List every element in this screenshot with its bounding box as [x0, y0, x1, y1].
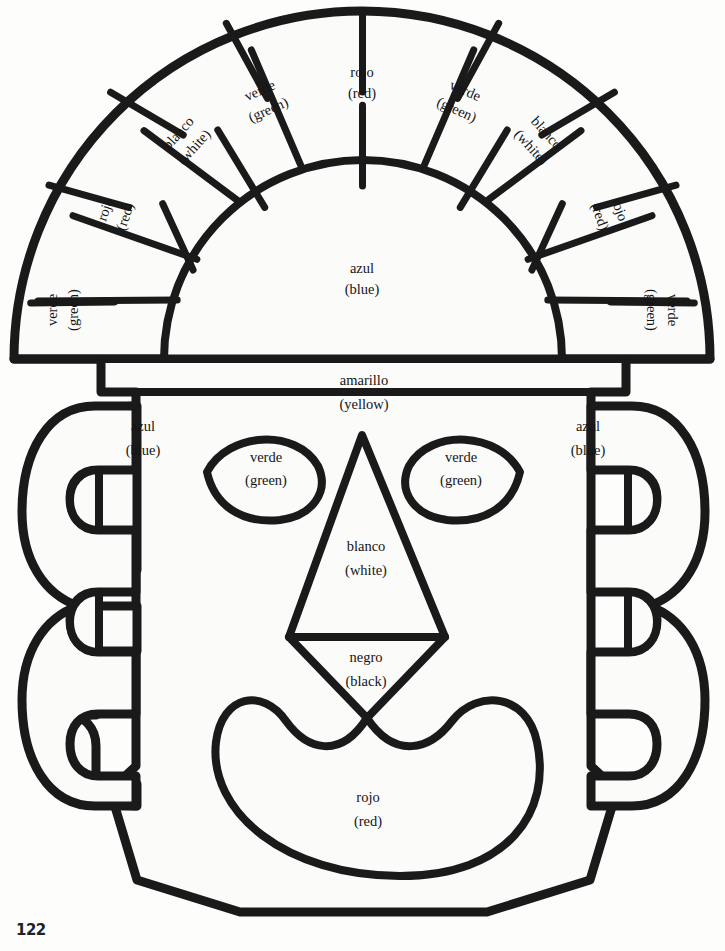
mask-illustration: azul (blue) verde (green) rojo (red) bla…	[0, 0, 725, 951]
label-left-eye-es: verde	[250, 449, 282, 465]
label-headdress-center-en: (blue)	[345, 281, 380, 298]
headdress-group	[14, 11, 711, 359]
label-seg-1-en: (green)	[65, 289, 82, 331]
label-nose-upper-en: (white)	[345, 562, 387, 579]
label-nose-lower-es: negro	[349, 649, 382, 665]
coloring-page: azul (blue) verde (green) rojo (red) bla…	[0, 0, 725, 951]
label-right-eye-es: verde	[445, 449, 477, 465]
label-nose-lower-en: (black)	[345, 673, 386, 690]
label-left-eye-en: (green)	[245, 472, 287, 489]
label-right-eye-en: (green)	[440, 472, 482, 489]
label-forehead-en: (yellow)	[339, 396, 388, 413]
label-seg-9-es: verde	[665, 294, 681, 326]
label-nose-upper-es: blanco	[347, 538, 386, 554]
label-mouth-es: rojo	[356, 789, 379, 805]
label-mouth-en: (red)	[354, 813, 382, 830]
label-headdress-center-es: azul	[350, 260, 374, 276]
label-forehead-es: amarillo	[340, 372, 388, 388]
label-left-ear-en: (blue)	[126, 442, 161, 459]
label-right-ear-en: (blue)	[571, 442, 606, 459]
page-number: 122	[16, 921, 46, 939]
label-left-ear-es: azul	[131, 418, 155, 434]
label-seg-1-es: verde	[44, 294, 60, 326]
label-seg-5-en: (red)	[348, 85, 376, 102]
label-seg-5-es: rojo	[350, 64, 373, 80]
label-right-ear-es: azul	[576, 418, 600, 434]
label-seg-9-en: (green)	[643, 289, 660, 331]
